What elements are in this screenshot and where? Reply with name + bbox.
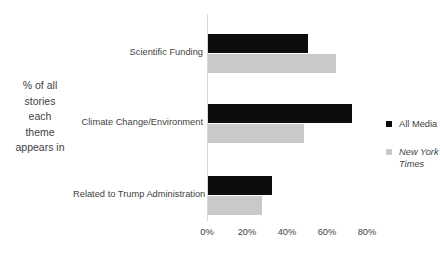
category-label-group: Scientific FundingClimate Change/Environ… (70, 0, 203, 230)
legend-item[interactable]: All Media (386, 118, 440, 130)
x-tick-label: 0% (187, 227, 227, 237)
legend-label: New York Times (399, 147, 439, 169)
bar-all-media (208, 176, 272, 195)
x-axis-tick-labels: 0%20%40%60%80% (207, 227, 407, 241)
legend-label: All Media (399, 119, 437, 129)
x-tick-label: 60% (307, 227, 347, 237)
category-label: Climate Change/Environment (73, 117, 203, 127)
x-tick-label: 40% (267, 227, 307, 237)
category-label: Scientific Funding (73, 47, 203, 57)
bar-all-media (208, 34, 308, 53)
legend-swatch-icon (386, 121, 392, 127)
x-tick-label: 20% (227, 227, 267, 237)
legend-swatch-icon (386, 149, 392, 155)
chart-legend: All MediaNew York Times (386, 118, 440, 186)
y-axis-title: % of all stories each theme appears in (4, 78, 76, 156)
bar-new-york-times (208, 54, 336, 73)
plot-area (207, 14, 379, 221)
bar-chart: % of all stories each theme appears in S… (0, 0, 440, 257)
bar-all-media (208, 104, 352, 123)
legend-item[interactable]: New York Times (386, 146, 440, 170)
bar-new-york-times (208, 124, 304, 143)
x-tick-label: 80% (347, 227, 387, 237)
category-label: Related to Trump Administration (73, 189, 203, 199)
bar-new-york-times (208, 196, 262, 215)
